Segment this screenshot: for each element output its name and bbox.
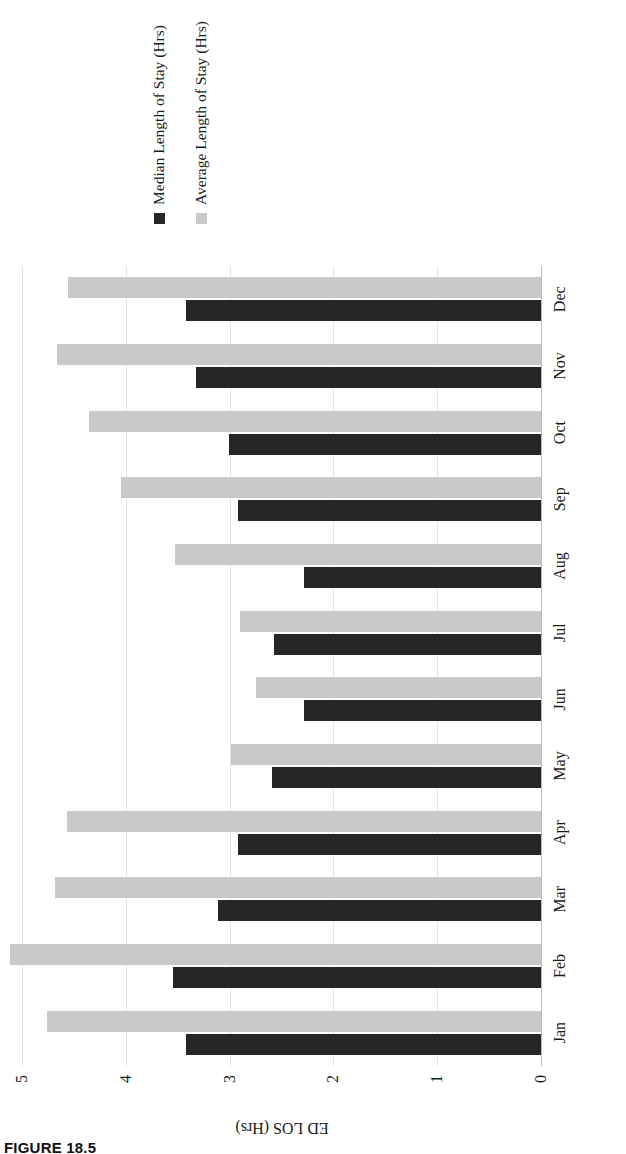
bar-median-dec [186,300,541,321]
bar-group-feb [22,933,541,1000]
category-label-jan: Jan [551,999,569,1066]
bar-median-nov [196,367,541,388]
bar-group-apr [22,799,541,866]
value-axis-title: ED LOS (Hrs) [22,1116,541,1140]
legend-label-average: Average Length of Stay (Hrs) [192,21,210,205]
category-label-oct: Oct [551,399,569,466]
value-tick-label-1: 1 [429,1075,445,1083]
bar-group-may [22,733,541,800]
category-label-aug: Aug [551,533,569,600]
value-axis-title-text: ED LOS (Hrs) [235,1119,328,1137]
gridline-0 [541,266,542,1066]
bar-group-aug [22,533,541,600]
value-tick-label-0: 0 [533,1075,549,1083]
chart-legend: Median Length of Stay (Hrs) Average Leng… [150,9,234,224]
value-tick-label-4: 4 [118,1075,134,1083]
bar-group-oct [22,399,541,466]
bar-group-jul [22,599,541,666]
bar-median-sep [238,500,541,521]
category-label-jun: Jun [551,666,569,733]
plot-area: 012345 [22,266,541,1066]
bar-average-may [231,744,541,765]
bar-average-sep [121,477,541,498]
category-label-jul: Jul [551,599,569,666]
figure-caption: FIGURE 18.5 [4,1139,96,1154]
bar-median-may [272,767,541,788]
bar-average-apr [67,811,541,832]
category-label-dec: Dec [551,266,569,333]
category-label-sep: Sep [551,466,569,533]
bar-median-mar [218,900,541,921]
category-label-feb: Feb [551,933,569,1000]
bar-average-jul [240,611,541,632]
legend-swatch-average-icon [196,213,207,224]
category-axis-labels: JanFebMarAprMayJunJulAugSepOctNovDec [551,266,569,1066]
value-tick-label-3: 3 [222,1075,238,1083]
figure-stage: ED LOS (Hrs) 012345 JanFebMarAprMayJunJu… [0,0,626,1154]
bar-median-feb [173,967,541,988]
bar-group-jan [22,999,541,1066]
bar-median-oct [229,434,541,455]
bar-group-sep [22,466,541,533]
bar-average-mar [55,877,541,898]
value-tick-label-2: 2 [325,1075,341,1083]
bar-group-nov [22,333,541,400]
bar-average-jun [256,677,541,698]
bar-group-mar [22,866,541,933]
bar-average-jan [47,1011,541,1032]
legend-label-median: Median Length of Stay (Hrs) [150,25,168,205]
bar-median-jul [274,634,541,655]
bar-average-nov [57,344,541,365]
bar-average-dec [68,277,541,298]
bar-median-jun [304,700,541,721]
bar-median-apr [238,834,541,855]
legend-item-average: Average Length of Stay (Hrs) [192,9,210,224]
bar-average-feb [10,944,541,965]
bar-average-oct [89,411,541,432]
bar-median-jan [186,1034,541,1055]
category-label-nov: Nov [551,333,569,400]
bar-median-aug [304,567,541,588]
bar-group-dec [22,266,541,333]
value-tick-label-5: 5 [14,1075,30,1083]
category-label-may: May [551,733,569,800]
bar-group-jun [22,666,541,733]
category-label-mar: Mar [551,866,569,933]
legend-swatch-median-icon [154,213,165,224]
bar-average-aug [175,544,541,565]
bar-groups [22,266,541,1066]
legend-item-median: Median Length of Stay (Hrs) [150,9,168,224]
category-label-apr: Apr [551,799,569,866]
